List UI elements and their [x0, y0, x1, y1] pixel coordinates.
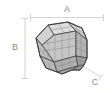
dimension-b-group: B: [12, 18, 29, 79]
dimension-a-label: A: [64, 4, 70, 14]
figure-container: A B C: [0, 0, 108, 91]
polyhedron-dimension-diagram: A B C: [0, 0, 108, 91]
dimension-a-group: A: [30, 4, 104, 21]
dimension-b-label: B: [12, 42, 18, 52]
dimension-c-tick-end: [99, 74, 103, 80]
dimension-c-label: C: [92, 77, 99, 87]
polyhedron-solid: [36, 22, 87, 74]
